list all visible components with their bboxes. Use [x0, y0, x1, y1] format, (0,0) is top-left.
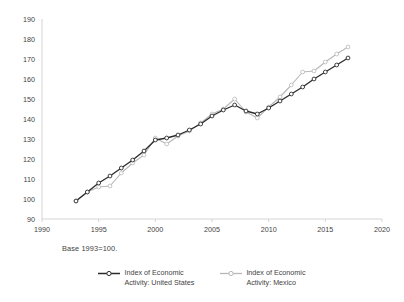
line-chart: 9010011012013014015016017018019019901995…: [0, 0, 404, 240]
series-united-states-line: [76, 58, 348, 201]
chart-figure: 9010011012013014015016017018019019901995…: [0, 0, 404, 302]
series-united-states-point: [278, 99, 282, 103]
series-united-states-point: [97, 181, 101, 185]
series-united-states-point: [244, 109, 248, 113]
y-axis-tick-label: 180: [23, 35, 35, 44]
series-united-states-point: [312, 77, 316, 81]
y-axis-tick-label: 160: [23, 75, 35, 84]
series-mexico-line: [76, 47, 348, 201]
series-mexico-point: [301, 70, 305, 74]
series-united-states-point: [131, 158, 135, 162]
series-united-states-point: [108, 174, 112, 178]
series-united-states-point: [267, 106, 271, 110]
series-mexico-point: [142, 153, 146, 157]
series-united-states-point: [221, 108, 225, 112]
y-axis-tick-label: 90: [27, 215, 35, 224]
series-mexico-point: [233, 97, 237, 101]
x-axis-tick-label: 2020: [374, 225, 390, 234]
series-united-states-point: [199, 122, 203, 126]
legend-label-united-states: Index of Economic Activity: United State…: [124, 268, 194, 287]
series-mexico: [74, 45, 350, 203]
y-axis-tick-label: 170: [23, 55, 35, 64]
series-mexico-point: [289, 83, 293, 87]
y-axis-tick-label: 110: [24, 175, 35, 184]
x-axis-tick-label: 2015: [317, 225, 333, 234]
x-axis-tick-label: 2010: [261, 225, 277, 234]
series-mexico-point: [165, 142, 169, 146]
series-mexico-point: [335, 52, 339, 56]
x-axis-tick-label: 2000: [147, 225, 163, 234]
series-united-states-point: [142, 149, 146, 153]
chart-legend: Index of Economic Activity: United State…: [0, 268, 404, 287]
series-mexico-point: [119, 171, 123, 175]
series-united-states: [74, 56, 350, 203]
series-mexico-point: [323, 60, 327, 64]
legend-marker-united-states-icon: [98, 269, 120, 278]
series-united-states-point: [85, 190, 89, 194]
y-axis-tick-label: 150: [23, 95, 35, 104]
legend-label-mexico-line1: Index of Economic: [246, 268, 305, 277]
series-united-states-point: [335, 63, 339, 67]
series-united-states-point: [119, 166, 123, 170]
x-axis-tick-label: 1995: [91, 225, 107, 234]
legend-label-united-states-line1: Index of Economic: [124, 268, 183, 277]
chart-caption: Base 1993=100.: [62, 244, 117, 253]
legend-label-united-states-line2: Activity: United States: [124, 278, 194, 288]
y-axis-tick-label: 100: [23, 195, 35, 204]
series-united-states-point: [176, 133, 180, 137]
y-axis-tick-label: 130: [23, 135, 35, 144]
series-mexico-point: [255, 116, 259, 120]
y-axis-tick-label: 140: [23, 115, 35, 124]
series-united-states-point: [165, 136, 169, 140]
series-united-states-point: [289, 92, 293, 96]
legend-label-mexico: Index of Economic Activity: Mexico: [246, 268, 305, 287]
legend-item-mexico: Index of Economic Activity: Mexico: [220, 268, 305, 287]
legend-marker-mexico-icon: [220, 269, 242, 278]
series-mexico-point: [346, 45, 350, 49]
series-mexico-point: [312, 69, 316, 73]
y-axis-tick-label: 190: [23, 15, 35, 24]
legend-item-united-states: Index of Economic Activity: United State…: [98, 268, 194, 287]
series-united-states-point: [255, 112, 259, 116]
series-mexico-point: [97, 185, 101, 189]
series-united-states-point: [210, 114, 214, 118]
series-united-states-point: [74, 199, 78, 203]
y-axis-tick-label: 120: [23, 155, 35, 164]
x-axis-tick-label: 2005: [204, 225, 220, 234]
series-united-states-point: [323, 70, 327, 74]
series-united-states-point: [346, 56, 350, 60]
series-united-states-point: [153, 138, 157, 142]
series-mexico-point: [278, 95, 282, 99]
series-united-states-point: [301, 85, 305, 89]
plot-area: 9010011012013014015016017018019019901995…: [0, 0, 404, 240]
series-united-states-point: [233, 103, 237, 107]
series-mexico-point: [108, 184, 112, 188]
series-united-states-point: [187, 128, 191, 132]
legend-label-mexico-line2: Activity: Mexico: [246, 278, 305, 288]
x-axis-tick-label: 1990: [34, 225, 50, 234]
